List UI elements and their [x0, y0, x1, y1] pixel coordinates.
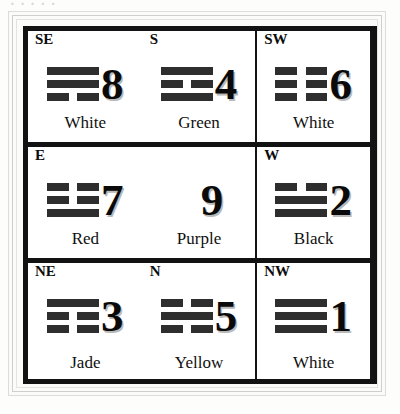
trigram-and-number: 9	[143, 171, 256, 229]
direction-label: S	[150, 32, 158, 47]
trigram-and-number: 4	[143, 55, 256, 113]
trigram-icon	[161, 67, 213, 101]
color-label: Red	[28, 229, 143, 249]
yang-line-icon	[47, 80, 99, 88]
yang-line-icon	[275, 312, 327, 320]
grid-cell-center[interactable]: 9Purple	[143, 147, 258, 263]
direction-label: W	[264, 148, 279, 163]
grid-cell-ne[interactable]: NE3Jade	[28, 263, 143, 379]
star-number: 2	[329, 178, 352, 223]
yang-line-icon	[161, 93, 213, 101]
yin-line-icon	[161, 80, 213, 88]
star-number: 9	[201, 178, 224, 223]
direction-label: NW	[264, 264, 289, 279]
color-label: Black	[257, 229, 370, 249]
trigram-icon	[275, 183, 327, 217]
star-number: 4	[215, 62, 238, 107]
grid-cell-e[interactable]: E7Red	[28, 147, 143, 263]
star-number: 3	[101, 294, 124, 339]
yin-line-icon	[47, 93, 99, 101]
yang-line-icon	[275, 325, 327, 333]
cropped-title-remnant: · · · · ·	[10, 0, 210, 9]
yin-line-icon	[275, 183, 327, 191]
yin-line-icon	[275, 67, 327, 75]
trigram-icon	[47, 299, 99, 333]
trigram-and-number: 5	[143, 287, 256, 345]
yang-line-icon	[47, 299, 99, 307]
star-number: 6	[329, 62, 352, 107]
yin-line-icon	[275, 80, 327, 88]
yang-line-icon	[47, 67, 99, 75]
yang-line-icon	[275, 209, 327, 217]
color-label: Green	[143, 113, 256, 133]
grid-cell-sw[interactable]: SW6White	[257, 31, 372, 147]
lo-shu-bagua-grid: SE8WhiteS4GreenSW6WhiteE7Red9PurpleW2Bla…	[23, 26, 377, 384]
yang-line-icon	[275, 196, 327, 204]
color-label: White	[257, 113, 370, 133]
yang-line-icon	[161, 312, 213, 320]
trigram-and-number: 8	[28, 55, 143, 113]
direction-label: E	[35, 148, 45, 163]
yin-line-icon	[47, 312, 99, 320]
star-number: 7	[101, 178, 124, 223]
yin-line-icon	[47, 325, 99, 333]
trigram-and-number: 3	[28, 287, 143, 345]
trigram-icon	[47, 183, 99, 217]
color-label: Yellow	[143, 353, 256, 373]
yin-line-icon	[47, 196, 99, 204]
yang-line-icon	[275, 299, 327, 307]
trigram-and-number: 2	[257, 171, 370, 229]
yang-line-icon	[47, 209, 99, 217]
star-number: 5	[215, 294, 238, 339]
trigram-icon	[47, 67, 99, 101]
direction-label: N	[150, 264, 161, 279]
color-label: Jade	[28, 353, 143, 373]
color-label: White	[257, 353, 370, 373]
trigram-icon	[275, 67, 327, 101]
grid-cell-se[interactable]: SE8White	[28, 31, 143, 147]
trigram-icon	[161, 299, 213, 333]
yin-line-icon	[47, 183, 99, 191]
color-label: White	[28, 113, 143, 133]
trigram-and-number: 7	[28, 171, 143, 229]
grid-cell-n[interactable]: N5Yellow	[143, 263, 258, 379]
star-number: 1	[329, 294, 352, 339]
color-label: Purple	[143, 229, 256, 249]
trigram-icon	[275, 299, 327, 333]
direction-label: NE	[35, 264, 55, 279]
grid-cell-w[interactable]: W2Black	[257, 147, 372, 263]
trigram-and-number: 1	[257, 287, 370, 345]
yin-line-icon	[161, 325, 213, 333]
yin-line-icon	[161, 299, 213, 307]
star-number: 8	[101, 62, 124, 107]
yang-line-icon	[161, 67, 213, 75]
direction-label: SE	[35, 32, 53, 47]
trigram-and-number: 6	[257, 55, 370, 113]
yin-line-icon	[275, 93, 327, 101]
grid-cell-nw[interactable]: NW1White	[257, 263, 372, 379]
direction-label: SW	[264, 32, 287, 47]
grid-cell-s[interactable]: S4Green	[143, 31, 258, 147]
